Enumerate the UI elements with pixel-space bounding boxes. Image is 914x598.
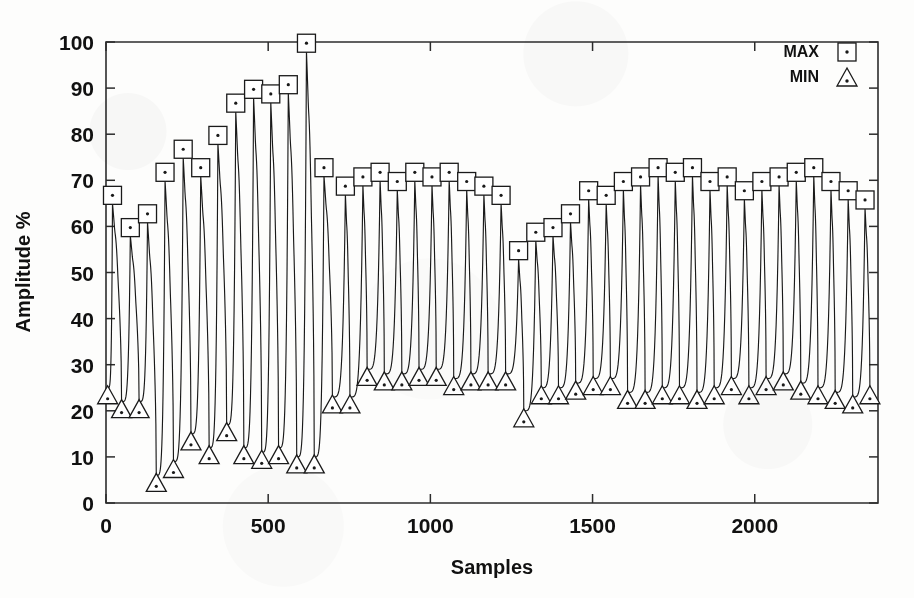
max-marker [666,163,684,181]
max-marker-dot [656,166,659,169]
max-marker-dot [448,171,451,174]
max-marker-dot [216,134,219,137]
max-marker [683,159,701,177]
min-marker-dot [609,388,612,391]
min-marker-dot [504,383,507,386]
max-marker-dot [795,171,798,174]
min-marker-dot [260,462,263,465]
min-marker-triangle [181,432,201,450]
min-marker-triangle [618,390,638,408]
min-marker-triangle [652,386,672,404]
min-marker-triangle [304,455,324,473]
min-marker-dot [331,406,334,409]
min-marker [721,377,741,395]
max-marker-dot [430,175,433,178]
y-tick-label: 10 [71,446,94,469]
min-marker-triangle [773,372,793,390]
min-marker [146,473,166,491]
min-marker-triangle [163,460,183,478]
min-marker [808,386,828,404]
min-marker-dot [868,397,871,400]
min-marker-dot [106,397,109,400]
max-marker [787,163,805,181]
min-marker-triangle [635,390,655,408]
min-marker-triangle [461,372,481,390]
max-marker-dot [482,185,485,188]
min-marker-dot [242,457,245,460]
max-marker [297,34,315,52]
legend-marker-max-icon [838,43,856,61]
min-marker-dot [225,434,228,437]
max-marker-dot [639,175,642,178]
min-marker-dot [661,397,664,400]
min-marker [583,377,603,395]
min-marker [129,400,149,418]
min-marker [217,423,237,441]
min-marker-triangle [146,473,166,491]
min-marker-dot [120,411,123,414]
min-marker-triangle [217,423,237,441]
max-marker [805,159,823,177]
max-marker-dot [111,194,114,197]
max-marker-dot [129,226,132,229]
min-marker-dot [764,388,767,391]
min-marker-triangle [199,446,219,464]
min-marker [549,386,569,404]
min-marker-triangle [566,381,586,399]
max-marker [839,182,857,200]
max-marker-dot [252,88,255,91]
max-marker [580,182,598,200]
max-marker [245,80,263,98]
y-tick-label: 0 [82,492,94,515]
max-marker [597,186,615,204]
max-marker [475,177,493,195]
max-marker [632,168,650,186]
max-marker-dot [517,249,520,252]
max-marker-dot [378,171,381,174]
max-marker [227,94,245,112]
min-marker [340,395,360,413]
max-marker [156,163,174,181]
min-marker-dot [678,397,681,400]
x-tick-label: 1500 [569,514,616,537]
min-marker-dot [695,402,698,405]
max-marker [388,173,406,191]
min-marker-dot [747,397,750,400]
min-marker-triangle [583,377,603,395]
min-marker [357,367,377,385]
max-marker-dot [163,171,166,174]
chart-legend: MAX MIN [783,43,857,86]
min-marker-triangle [129,400,149,418]
max-marker-dot [847,189,850,192]
x-tick-label: 1000 [407,514,454,537]
min-marker-dot [799,393,802,396]
min-marker-triangle [860,386,880,404]
min-marker-dot [137,411,140,414]
max-marker-group [103,34,874,259]
y-tick-label: 90 [71,77,94,100]
max-marker-dot [305,42,308,45]
min-marker-triangle [98,386,118,404]
max-marker [527,223,545,241]
max-marker-dot [708,180,711,183]
min-marker [322,395,342,413]
max-marker-dot [829,180,832,183]
max-marker-dot [726,175,729,178]
max-marker-dot [812,166,815,169]
min-marker [426,367,446,385]
chart-figure: 0102030405060708090100 0500100015002000 … [0,0,914,598]
min-marker [287,455,307,473]
y-tick-label: 20 [71,400,94,423]
min-marker [392,372,412,390]
min-marker [825,390,845,408]
min-marker [478,372,498,390]
max-marker [336,177,354,195]
x-axis-label: Samples [451,556,533,578]
min-marker-triangle [531,386,551,404]
max-marker [423,168,441,186]
min-marker-triangle [357,367,377,385]
min-marker-dot [540,397,543,400]
max-marker-dot [465,180,468,183]
min-marker-triangle [808,386,828,404]
legend-marker-min-icon [837,68,857,86]
